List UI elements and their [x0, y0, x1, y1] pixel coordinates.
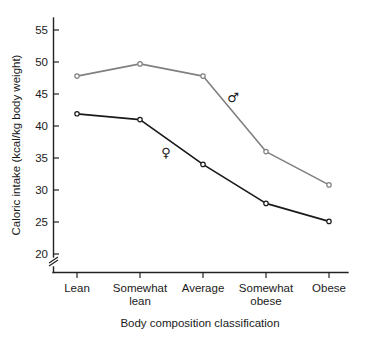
male-symbol-label: ♂ — [227, 90, 239, 105]
chart-figure: Caloric intake (kcal/kg body weight) 55 … — [0, 0, 365, 344]
line-chart-svg: Caloric intake (kcal/kg body weight) 55 … — [0, 0, 365, 344]
x-tick-label-somewhat-lean-line1: Somewhat — [113, 282, 168, 294]
female-symbol-label: ♀ — [161, 145, 171, 160]
x-tick-label-somewhat-obese-line2: obese — [250, 295, 281, 307]
data-point-female-lean — [75, 112, 79, 116]
y-tick-label-20: 20 — [35, 248, 48, 260]
y-axis-title: Caloric intake (kcal/kg body weight) — [10, 54, 22, 235]
y-tick-label-25: 25 — [35, 216, 48, 228]
x-tick-label-lean: Lean — [64, 282, 90, 294]
data-point-male-somewhat-obese — [264, 149, 268, 153]
data-point-male-obese — [327, 183, 331, 187]
series-female — [75, 112, 331, 224]
x-tick-label-obese: Obese — [312, 282, 346, 294]
y-axis-break-icon — [49, 257, 58, 266]
y-ticks-group: 55 50 45 40 35 30 25 20 — [35, 24, 59, 260]
data-point-female-somewhat-lean — [138, 117, 142, 121]
data-point-female-somewhat-obese — [264, 201, 268, 205]
y-tick-label-50: 50 — [35, 56, 48, 68]
data-point-male-average — [201, 74, 205, 78]
x-tick-label-somewhat-lean-line2: lean — [129, 295, 151, 307]
axes-group — [49, 18, 348, 273]
y-tick-label-55: 55 — [35, 24, 48, 36]
data-point-female-average — [201, 162, 205, 166]
series-male — [75, 62, 331, 187]
x-axis-title: Body composition classification — [120, 317, 279, 329]
y-tick-label-30: 30 — [35, 184, 48, 196]
data-series-layer — [75, 62, 331, 224]
x-ticks-group — [77, 273, 329, 279]
x-tick-labels-group: Lean Somewhat lean Average Somewhat obes… — [64, 282, 346, 307]
y-tick-label-40: 40 — [35, 120, 48, 132]
data-point-female-obese — [327, 219, 331, 223]
series-line-female — [77, 114, 329, 222]
x-tick-label-average: Average — [182, 282, 225, 294]
y-tick-label-35: 35 — [35, 152, 48, 164]
x-tick-label-somewhat-obese-line1: Somewhat — [239, 282, 294, 294]
y-tick-label-45: 45 — [35, 88, 48, 100]
data-point-male-somewhat-lean — [138, 62, 142, 66]
data-point-male-lean — [75, 74, 79, 78]
